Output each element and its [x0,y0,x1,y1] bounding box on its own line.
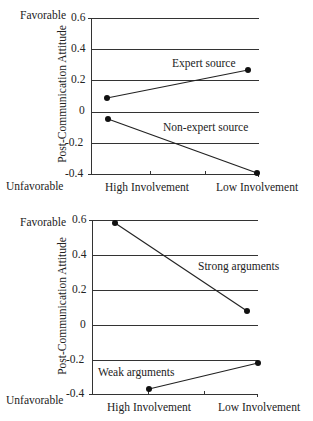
unfavorable-label: Unfavorable [6,394,63,406]
series-label-weak: Weak arguments [98,366,174,378]
x-label-high: High Involvement [105,181,189,193]
ytick-0.4: 0.4 [72,248,86,260]
x-label-high: High Involvement [107,401,191,413]
ytick-neg0.4: -0.4 [65,167,83,179]
gridlines [88,18,259,177]
top-chart-plot [0,0,313,205]
ytick-0.6: 0.6 [71,11,85,23]
series-label-strong: Strong arguments [198,260,279,272]
series-label-expert: Expert source [172,57,236,69]
x-label-low: Low Involvement [218,401,300,413]
favorable-label: Favorable [20,216,66,228]
top-chart: Favorable Unfavorable 0.6 0.4 0.2 0 -0.2… [0,0,313,205]
series-expert-source [104,67,251,101]
ytick-0.2: 0.2 [72,283,86,295]
favorable-label: Favorable [20,9,66,21]
x-label-low: Low Involvement [216,181,298,193]
ytick-0: 0 [79,104,85,116]
unfavorable-label: Unfavorable [6,180,63,192]
ytick-neg0.4: -0.4 [66,387,84,399]
bottom-chart: Favorable Unfavorable 0.6 0.4 0.2 0 -0.2… [0,205,313,421]
ytick-0.6: 0.6 [72,213,86,225]
series-label-non-expert: Non-expert source [163,121,248,133]
y-axis-title: Post-Communication Attitude [56,236,68,376]
ytick-0.2: 0.2 [71,73,85,85]
bottom-chart-plot [0,205,313,421]
ytick-0: 0 [80,318,86,330]
ytick-neg0.2: -0.2 [66,353,84,365]
ytick-0.4: 0.4 [71,42,85,54]
y-axis-title: Post-Communication Attitude [56,24,68,164]
